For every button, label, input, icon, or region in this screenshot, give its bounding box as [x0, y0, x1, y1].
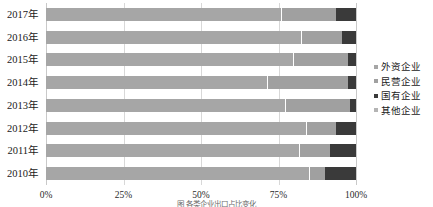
legend-label: 民营企业 — [381, 76, 421, 87]
bar-segment[interactable] — [342, 31, 356, 44]
stacked-bar-chart: 2017年2016年2015年2014年2013年2012年2011年2010年… — [0, 0, 433, 207]
y-axis-label-2011: 2011年 — [7, 144, 38, 157]
chart-legend: 外资企业民营企业国有企业其他企业 — [374, 61, 433, 116]
bar-segment[interactable] — [267, 76, 348, 89]
bar-segment[interactable] — [299, 144, 329, 157]
bar-segment[interactable] — [46, 31, 301, 44]
bar-segment[interactable] — [46, 8, 281, 21]
legend-item[interactable]: 民营企业 — [374, 76, 433, 87]
bar-row[interactable] — [46, 8, 356, 21]
legend-swatch-icon — [374, 108, 378, 112]
bar-segment[interactable] — [46, 53, 293, 66]
legend-item[interactable]: 其他企业 — [374, 105, 433, 116]
bar-row[interactable] — [46, 122, 356, 135]
bar-row[interactable] — [46, 144, 356, 157]
y-axis-label-2012: 2012年 — [7, 122, 38, 135]
y-axis-label-2014: 2014年 — [7, 76, 38, 89]
legend-swatch-icon — [374, 94, 378, 98]
legend-item[interactable]: 外资企业 — [374, 61, 433, 72]
plot-area — [46, 3, 356, 185]
bar-segment[interactable] — [309, 167, 325, 180]
bar-segment[interactable] — [46, 144, 299, 157]
y-axis-label-2016: 2016年 — [7, 31, 38, 44]
bar-segment[interactable] — [330, 144, 356, 157]
bar-row[interactable] — [46, 76, 356, 89]
bar-segment[interactable] — [336, 8, 356, 21]
bar-segment[interactable] — [46, 99, 285, 112]
bar-row[interactable] — [46, 31, 356, 44]
legend-swatch-icon — [374, 65, 378, 69]
bar-segment[interactable] — [301, 31, 342, 44]
gridline-100pct — [356, 3, 357, 185]
bar-row[interactable] — [46, 167, 356, 180]
bar-segment[interactable] — [46, 76, 267, 89]
y-axis-label-2013: 2013年 — [7, 99, 38, 112]
bar-segment[interactable] — [293, 53, 348, 66]
bar-segment[interactable] — [336, 122, 356, 135]
bar-series-container — [46, 3, 356, 185]
y-axis-label-2017: 2017年 — [7, 8, 38, 21]
y-axis-label-2015: 2015年 — [7, 53, 38, 66]
bar-row[interactable] — [46, 53, 356, 66]
legend-label: 国有企业 — [381, 90, 421, 101]
bar-row[interactable] — [46, 99, 356, 112]
bar-segment[interactable] — [281, 8, 336, 21]
bar-segment[interactable] — [46, 122, 306, 135]
bar-segment[interactable] — [285, 99, 349, 112]
figure-caption: 图 各类企业出口占比变化 — [0, 200, 433, 207]
bar-segment[interactable] — [350, 99, 356, 112]
bar-segment[interactable] — [348, 53, 356, 66]
y-axis-label-2010: 2010年 — [7, 167, 38, 180]
legend-label: 外资企业 — [381, 61, 421, 72]
bar-segment[interactable] — [348, 76, 356, 89]
y-axis-year-labels: 2017年2016年2015年2014年2013年2012年2011年2010年 — [0, 3, 44, 185]
legend-label: 其他企业 — [381, 105, 421, 116]
legend-swatch-icon — [374, 79, 378, 83]
bar-segment[interactable] — [46, 167, 309, 180]
legend-item[interactable]: 国有企业 — [374, 90, 433, 101]
bar-segment[interactable] — [325, 167, 356, 180]
bar-segment[interactable] — [306, 122, 336, 135]
